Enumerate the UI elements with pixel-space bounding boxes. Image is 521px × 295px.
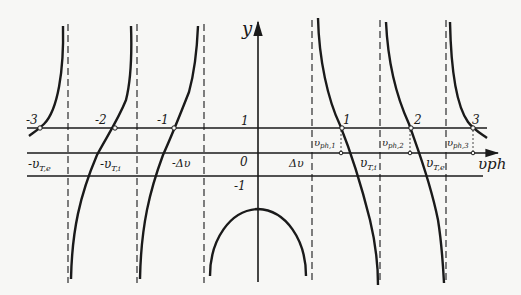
label-neg-delta-v: -Δυ	[172, 158, 190, 169]
label-vph2: υph,2	[382, 138, 404, 150]
x-axis-label: υph	[478, 157, 506, 172]
label-vTe: υT,e	[426, 157, 445, 172]
label-zero: 0	[240, 156, 248, 168]
label-vph1: υph,1	[314, 138, 336, 150]
label-minus-one: -1	[234, 180, 246, 192]
label-vTi: υT,i	[360, 157, 377, 172]
intersection-points	[38, 126, 475, 155]
label-one: 1	[241, 115, 249, 127]
label-vph3: υph,3	[447, 138, 469, 150]
label-neg-vTe: -υT,e	[28, 158, 51, 173]
point-label-3: 3	[472, 114, 480, 126]
point-label-minus-3: -3	[26, 114, 38, 126]
point-label-minus-1: -1	[157, 114, 169, 126]
diagram-canvas	[0, 0, 521, 295]
point-label-2: 2	[414, 114, 422, 126]
y-axis-label: y	[242, 20, 252, 38]
label-delta-v: Δυ	[289, 158, 304, 169]
point-label-1: 1	[343, 114, 351, 126]
label-neg-vTi: -υT,i	[100, 158, 121, 173]
point-label-minus-2: -2	[95, 114, 107, 126]
